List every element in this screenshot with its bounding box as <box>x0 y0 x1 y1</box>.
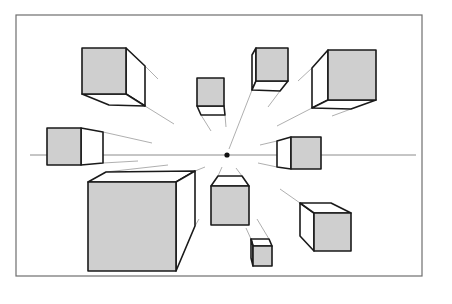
guide-ray <box>257 219 269 239</box>
guide-ray <box>229 90 252 149</box>
guide-ray <box>332 109 351 116</box>
cube-side-face <box>251 239 272 246</box>
cube-side-face <box>252 81 288 91</box>
guide-ray <box>225 115 226 127</box>
guide-ray <box>103 132 152 143</box>
cube-side-face <box>197 106 225 115</box>
cube-top-center <box>252 48 288 91</box>
cube-center-bottom <box>211 176 249 225</box>
cube-front-face <box>197 78 224 106</box>
guide-ray <box>260 141 277 145</box>
guide-ray <box>145 66 158 79</box>
cube-left-mid <box>47 128 103 165</box>
cube-group <box>47 48 376 271</box>
cube-right-mid <box>277 137 321 169</box>
cube-front-face <box>88 182 176 271</box>
guide-ray <box>277 108 312 126</box>
perspective-diagram <box>0 0 452 304</box>
cube-top-left-large <box>82 48 145 106</box>
guide-ray <box>195 167 205 171</box>
guide-ray <box>280 189 300 203</box>
cube-front-face <box>211 186 249 225</box>
cube-top-center-small <box>197 78 225 115</box>
cube-side-face <box>176 171 195 271</box>
cube-front-face <box>314 213 351 251</box>
cube-front-face <box>47 128 81 165</box>
guide-ray <box>201 115 211 131</box>
cube-side-face <box>81 128 103 165</box>
guide-ray <box>268 91 280 107</box>
cube-front-face <box>82 48 126 94</box>
cube-front-face <box>291 137 321 169</box>
guide-ray <box>236 168 242 176</box>
vanishing-point <box>224 152 229 157</box>
cube-bottom-small <box>251 239 272 266</box>
cube-front-face <box>328 50 376 100</box>
cube-top-right-large <box>312 50 376 109</box>
guide-ray <box>258 163 277 167</box>
cube-bottom-left-large <box>88 171 195 271</box>
cube-front-face <box>253 246 272 266</box>
cube-front-face <box>256 48 288 81</box>
cube-side-face <box>277 137 291 169</box>
cube-side-face <box>312 50 328 108</box>
guide-ray <box>298 68 312 81</box>
guide-ray <box>145 106 174 124</box>
guide-ray <box>246 228 251 239</box>
cube-bottom-right <box>300 203 351 251</box>
guide-ray <box>218 167 222 176</box>
cube-side-face <box>211 176 249 186</box>
guide-ray <box>103 161 138 163</box>
